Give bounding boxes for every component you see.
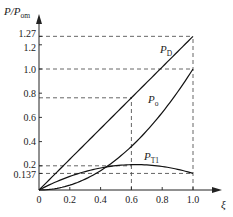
x-axis-label: ξ bbox=[221, 198, 226, 211]
x-axis-arrow-icon bbox=[212, 187, 222, 193]
y-tick-label: 1.27 bbox=[19, 28, 37, 39]
y-axis-arrow-icon bbox=[36, 14, 42, 24]
curve-p-t1 bbox=[39, 165, 193, 190]
y-axis-label: P/Pom bbox=[3, 5, 30, 20]
y-tick-label: 0.6 bbox=[24, 112, 37, 123]
curve-p-d bbox=[39, 36, 193, 190]
y-tick-label: 0.4 bbox=[24, 136, 37, 147]
y-tick-label: 1.0 bbox=[24, 64, 37, 75]
y-tick-label: 0.2 bbox=[24, 159, 37, 170]
x-tick-label: 0.8 bbox=[156, 194, 169, 205]
x-tick-label: 0.2 bbox=[64, 194, 77, 205]
label-p-o: Po bbox=[147, 93, 159, 108]
power-ratio-chart: 00.20.40.60.81.00.1370.20.40.60.81.01.21… bbox=[0, 0, 233, 217]
label-p-d: PD bbox=[159, 43, 173, 58]
x-tick-label: 0.6 bbox=[125, 194, 138, 205]
x-tick-label: 1.0 bbox=[187, 194, 200, 205]
label-p-t1: PT1 bbox=[143, 150, 159, 165]
x-tick-label: 0 bbox=[37, 194, 42, 205]
y-tick-label: 0.8 bbox=[24, 88, 37, 99]
curves bbox=[39, 36, 193, 190]
curve-p-o bbox=[39, 69, 193, 190]
x-tick-label: 0.4 bbox=[94, 194, 107, 205]
y-tick-label: 0.137 bbox=[14, 169, 37, 180]
y-tick-label: 1.2 bbox=[24, 42, 37, 53]
